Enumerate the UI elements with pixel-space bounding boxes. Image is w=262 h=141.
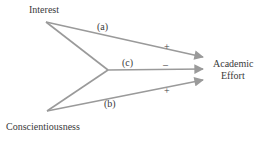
path-b-sign: +: [164, 85, 170, 96]
path-b-label: (b): [104, 98, 116, 109]
node-academic-effort-line2: Effort: [221, 70, 245, 81]
path-c-label: (c): [122, 57, 133, 68]
node-interest: Interest: [29, 4, 59, 15]
node-academic-effort-line1: Academic: [213, 58, 254, 69]
node-conscientiousness: Conscientiousness: [6, 121, 80, 132]
path-c-sign: –: [163, 59, 168, 70]
path-a-sign: +: [164, 41, 170, 52]
path-a-label: (a): [97, 21, 108, 32]
